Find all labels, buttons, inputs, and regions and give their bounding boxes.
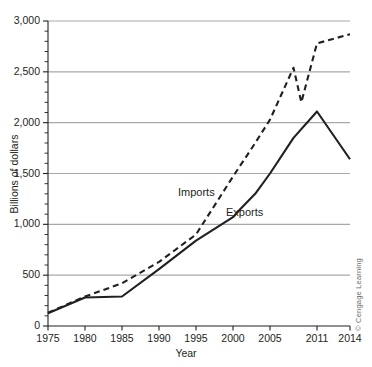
x-axis-ticks xyxy=(48,326,350,331)
y-tick-label: 1,500 xyxy=(0,167,40,179)
y-axis-major-ticks xyxy=(43,21,48,326)
x-tick-label: 2014 xyxy=(328,332,372,344)
imports-series-label: Imports xyxy=(178,186,215,198)
x-axis-title: Year xyxy=(0,347,372,359)
x-tick-label: 2005 xyxy=(248,332,292,344)
exports-series-label: Exports xyxy=(226,206,263,218)
trade-line-chart: 05001,0001,5002,0002,5003,000 1975198019… xyxy=(0,0,372,367)
y-tick-label: 0 xyxy=(0,319,40,331)
y-tick-label: 1,000 xyxy=(0,217,40,229)
gridlines xyxy=(48,21,350,275)
y-tick-label: 3,000 xyxy=(0,14,40,26)
copyright-credit: © Cengage Learning xyxy=(354,235,363,355)
y-tick-label: 500 xyxy=(0,268,40,280)
y-tick-label: 2,500 xyxy=(0,65,40,77)
y-axis-title: Billions of dollars xyxy=(8,114,20,234)
y-tick-label: 2,000 xyxy=(0,116,40,128)
chart-plot-area xyxy=(0,0,372,367)
exports-series-line xyxy=(48,111,350,313)
